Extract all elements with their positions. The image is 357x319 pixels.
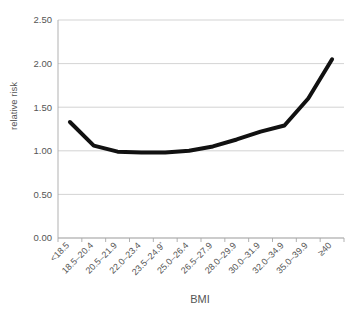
relative-risk-line xyxy=(70,59,332,152)
y-tick-label: 1.00 xyxy=(34,145,53,156)
y-tick-label: 1.50 xyxy=(34,102,53,113)
plot-series-group xyxy=(70,59,332,152)
bmi-relative-risk-chart: 0.000.501.001.502.002.50 <18.518.5–20.42… xyxy=(0,0,357,319)
x-tick-label-annotation: * xyxy=(158,240,164,246)
y-tick-label: 0.50 xyxy=(34,189,53,200)
y-tick-label: 2.50 xyxy=(34,14,53,25)
gridlines-group xyxy=(58,20,344,238)
x-tick-label: ≥40 xyxy=(316,240,334,258)
chart-canvas: 0.000.501.001.502.002.50 <18.518.5–20.42… xyxy=(0,0,357,319)
y-tick-label: 2.00 xyxy=(34,58,53,69)
x-tick-labels-group: <18.518.5–20.420.5–21.922.0–23.423.5–24.… xyxy=(48,240,333,278)
y-tick-labels-group: 0.000.501.001.502.002.50 xyxy=(34,14,53,243)
y-tick-label: 0.00 xyxy=(34,232,53,243)
y-axis-title: relative risk xyxy=(8,82,19,130)
x-axis-title: BMI xyxy=(190,293,210,305)
